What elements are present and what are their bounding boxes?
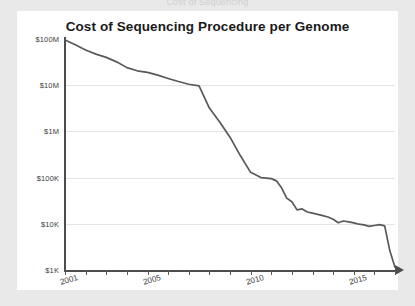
x-axis-tick <box>209 270 210 275</box>
y-axis-tick-label: $1K <box>45 266 59 275</box>
x-axis-tick <box>106 270 107 275</box>
x-axis-tick-label: 2010 <box>245 273 265 287</box>
y-axis-tick-label: $100K <box>37 173 59 182</box>
x-axis-tick <box>127 270 128 275</box>
chart-title: Cost of Sequencing Procedure per Genome <box>17 19 398 34</box>
y-axis-tick-label: $100M <box>36 35 59 44</box>
x-axis-tick <box>313 270 314 275</box>
x-axis-tick <box>168 270 169 275</box>
x-axis-tick-label: 2015 <box>348 273 368 287</box>
x-axis-tick <box>333 270 334 275</box>
x-axis-tick <box>65 270 66 275</box>
y-axis-tick-label: $1M <box>44 127 59 136</box>
x-axis-tick-label: 2001 <box>59 273 79 287</box>
x-axis-tick <box>395 270 396 275</box>
x-axis-tick <box>292 270 293 275</box>
x-axis-tick <box>271 270 272 275</box>
plot-area: $100M$10M$1M$100K$10K$1K 200120052010201… <box>65 39 395 270</box>
y-axis-tick-label: $10M <box>40 81 59 90</box>
y-axis-tick-label: $10K <box>41 219 59 228</box>
x-axis-tick-label: 2005 <box>142 273 162 287</box>
x-axis-tick <box>86 270 87 275</box>
series-line-chart <box>65 39 395 270</box>
x-axis-tick <box>148 270 149 275</box>
clipped-header-text: Cost of Sequencing <box>0 0 415 9</box>
x-axis-arrow-icon <box>395 265 404 275</box>
x-axis-tick <box>251 270 252 275</box>
x-axis-tick <box>374 270 375 275</box>
x-axis-tick <box>354 270 355 275</box>
x-axis-tick <box>189 270 190 275</box>
series-line-path <box>65 40 395 267</box>
chart-card: Cost of Sequencing Procedure per Genome … <box>17 11 398 290</box>
x-axis-tick <box>230 270 231 275</box>
